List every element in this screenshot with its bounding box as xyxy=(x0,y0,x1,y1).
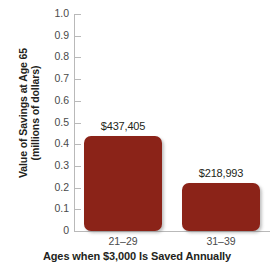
y-axis-tick-mark xyxy=(75,123,81,124)
y-axis-tick: 0.6 xyxy=(74,101,81,102)
y-axis-title-line-1: Value of Savings at Age 65 xyxy=(17,48,29,178)
y-axis-tick-label: 0.9 xyxy=(54,29,69,41)
y-axis-tick-label: 0.2 xyxy=(54,181,69,193)
y-axis-tick-mark xyxy=(75,14,81,15)
y-axis-tick: 0.9 xyxy=(74,36,81,37)
y-axis-tick-label: 0.7 xyxy=(54,72,69,84)
bar-group: $437,40521–29 xyxy=(84,14,162,231)
plot-area: 1.00.90.80.70.60.50.40.30.20.10 $437,405… xyxy=(74,14,270,231)
y-axis-tick-mark xyxy=(75,231,81,232)
y-axis-tick-mark xyxy=(75,79,81,80)
y-axis-tick-label: 0.3 xyxy=(54,159,69,171)
y-axis-tick-label: 0.4 xyxy=(54,137,69,149)
y-axis-tick-mark xyxy=(75,57,81,58)
y-axis-tick: 0.3 xyxy=(74,166,81,167)
y-axis-tick-label: 0.5 xyxy=(54,116,69,128)
y-axis-tick: 0.7 xyxy=(74,79,81,80)
y-axis-tick: 0.4 xyxy=(74,144,81,145)
y-axis-title: Value of Savings at Age 65 (millions of … xyxy=(12,18,46,208)
x-axis-category-label: 31–39 xyxy=(206,235,235,247)
bar[interactable] xyxy=(84,136,162,231)
y-axis-tick-label: 0 xyxy=(63,224,69,236)
x-axis-title: Ages when $3,000 Is Saved Annually xyxy=(0,250,274,262)
y-axis-tick: 0.2 xyxy=(74,188,81,189)
y-axis-tick-label: 0.1 xyxy=(54,202,69,214)
y-axis-tick: 0.5 xyxy=(74,123,81,124)
y-axis-tick: 0.1 xyxy=(74,209,81,210)
y-axis-tick: 0 xyxy=(74,231,81,232)
y-axis-tick-label: 1.0 xyxy=(54,7,69,19)
y-axis-tick-mark xyxy=(75,144,81,145)
x-axis-line xyxy=(74,231,270,232)
y-axis-tick-label: 0.8 xyxy=(54,50,69,62)
y-axis-tick-label: 0.6 xyxy=(54,94,69,106)
y-axis-tick-mark xyxy=(75,101,81,102)
x-axis-category-label: 21–29 xyxy=(108,235,137,247)
y-axis-tick-mark xyxy=(75,188,81,189)
y-axis-title-line-2: (millions of dollars) xyxy=(29,66,41,161)
bar-value-label: $218,993 xyxy=(199,167,243,179)
y-axis-tick-mark xyxy=(75,36,81,37)
bar-value-label: $437,405 xyxy=(101,120,145,132)
y-axis-tick: 0.8 xyxy=(74,57,81,58)
y-axis-tick-mark xyxy=(75,166,81,167)
bar-chart: Value of Savings at Age 65 (millions of … xyxy=(0,0,274,268)
y-axis-tick: 1.0 xyxy=(74,14,81,15)
y-axis-tick-mark xyxy=(75,209,81,210)
bar[interactable] xyxy=(182,183,260,231)
bar-group: $218,99331–39 xyxy=(182,14,260,231)
